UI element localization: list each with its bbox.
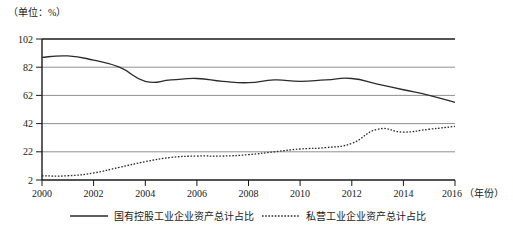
y-tick-label-2: 2 (28, 175, 33, 186)
y-tick-label-42: 42 (23, 118, 33, 129)
y-tick-label-62: 62 (23, 90, 33, 101)
line-chart: 102 82 62 42 22 2 2000 2002 2004 2006 20… (0, 0, 513, 235)
x-tick-label-2008: 2008 (239, 188, 259, 199)
y-tick-label-22: 22 (23, 146, 33, 157)
x-tick-label-2010: 2010 (290, 188, 310, 199)
gridlines (42, 67, 455, 152)
chart-figure: （单位：%） 102 82 62 42 2 (0, 0, 513, 235)
x-tick-label-2002: 2002 (84, 188, 104, 199)
x-tick-labels: 2000 2002 2004 2006 2008 2010 2012 2014 … (32, 187, 504, 199)
x-tick-label-2012: 2012 (342, 188, 362, 199)
chart-legend: 国有控股工业企业资产总计占比 私营工业企业资产总计占比 (70, 210, 426, 222)
y-tick-label-82: 82 (23, 62, 33, 73)
y-tick-labels: 102 82 62 42 22 2 (18, 34, 33, 186)
x-tick-label-2016: 2016 (442, 188, 462, 199)
x-tick-label-2006: 2006 (187, 188, 207, 199)
x-tick-label-2004: 2004 (135, 188, 155, 199)
y-ticks (36, 39, 42, 180)
x-ticks (42, 180, 455, 186)
legend-label-private: 私营工业企业资产总计占比 (306, 210, 426, 222)
legend-label-state-holding: 国有控股工业企业资产总计占比 (114, 210, 254, 222)
x-tick-label-2014: 2014 (393, 188, 413, 199)
x-axis-name: （年份） (464, 187, 504, 199)
series-line-private (42, 126, 455, 176)
x-tick-label-2000: 2000 (32, 188, 52, 199)
y-tick-label-102: 102 (18, 34, 33, 45)
